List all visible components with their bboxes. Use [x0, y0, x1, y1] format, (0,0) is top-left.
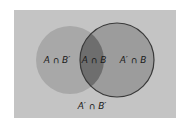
label-a-only: A ∩ B′	[43, 55, 71, 65]
label-b-only: A′ ∩ B	[119, 55, 147, 65]
label-intersection: A ∩ B	[81, 55, 107, 65]
venn-diagram: A ∩ B′ A ∩ B A′ ∩ B A′ ∩ B′	[0, 0, 187, 126]
label-outside: A′ ∩ B′	[77, 101, 107, 111]
